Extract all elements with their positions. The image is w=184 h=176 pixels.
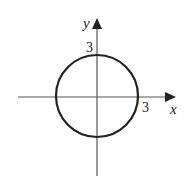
y-axis-arrow-icon (92, 18, 102, 29)
x-tick-label-3: 3 (142, 100, 149, 115)
y-axis-label: y (81, 15, 90, 31)
x-axis-label: x (169, 101, 177, 117)
y-tick-label-3: 3 (86, 40, 93, 55)
coordinate-diagram: y 3 3 x (0, 0, 184, 176)
